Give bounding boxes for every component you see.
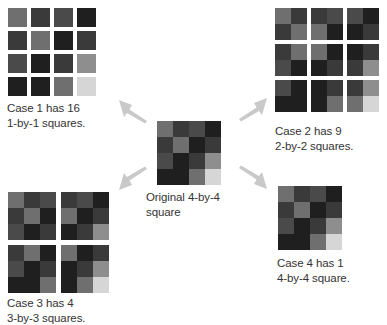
- pattern-cell: [8, 224, 24, 240]
- pattern-cell: [347, 60, 363, 76]
- pattern-cell: [77, 31, 96, 50]
- pattern-cell: [205, 153, 221, 169]
- pattern-cell: [54, 31, 73, 50]
- pattern-cell: [347, 96, 363, 112]
- pattern-cell: [363, 44, 379, 60]
- pattern-cell: [327, 8, 343, 24]
- pattern-cell: [93, 192, 109, 208]
- pattern-cell: [347, 44, 363, 60]
- pattern-cell: [24, 208, 40, 224]
- pattern-cell: [326, 234, 342, 250]
- pattern-cell: [363, 96, 379, 112]
- pattern-cell: [291, 8, 307, 24]
- pattern-cell: [61, 277, 77, 293]
- pattern-cell: [326, 186, 342, 202]
- pattern-cell: [205, 137, 221, 153]
- pattern-cell: [8, 208, 24, 224]
- pattern-cell: [311, 80, 327, 96]
- pattern-cell: [291, 96, 307, 112]
- pattern-cell: [77, 277, 93, 293]
- sub-square-block: [347, 8, 379, 40]
- case-1-group: [8, 8, 96, 96]
- pattern-cell: [93, 245, 109, 261]
- pattern-cell: [24, 245, 40, 261]
- case-4-caption: Case 4 has 1 4-by-4 square.: [277, 256, 350, 285]
- pattern-cell: [8, 8, 27, 27]
- pattern-cell: [275, 96, 291, 112]
- pattern-cell: [8, 31, 27, 50]
- pattern-cell: [31, 31, 50, 50]
- pattern-cell: [40, 277, 56, 293]
- pattern-cell: [311, 8, 327, 24]
- sub-square-block: [61, 192, 109, 240]
- pattern-cell: [275, 8, 291, 24]
- pattern-cell: [294, 186, 310, 202]
- pattern-cell: [40, 192, 56, 208]
- case-4-grid: [278, 186, 342, 250]
- pattern-cell: [31, 8, 50, 27]
- pattern-cell: [40, 261, 56, 277]
- arrow-down-left-icon: [116, 164, 150, 194]
- pattern-cell: [327, 60, 343, 76]
- arrow-up-right-icon: [236, 94, 270, 124]
- pattern-cell: [54, 54, 73, 73]
- pattern-cell: [327, 24, 343, 40]
- pattern-cell: [8, 261, 24, 277]
- pattern-cell: [294, 234, 310, 250]
- pattern-cell: [8, 277, 24, 293]
- pattern-cell: [54, 77, 73, 96]
- pattern-cell: [93, 208, 109, 224]
- sub-square-block: [275, 80, 307, 112]
- pattern-cell: [363, 8, 379, 24]
- pattern-cell: [327, 44, 343, 60]
- pattern-cell: [291, 80, 307, 96]
- sub-square-block: [275, 44, 307, 76]
- pattern-cell: [275, 44, 291, 60]
- pattern-cell: [40, 208, 56, 224]
- pattern-cell: [291, 44, 307, 60]
- sub-square-block: [8, 245, 56, 293]
- pattern-cell: [77, 208, 93, 224]
- pattern-cell: [77, 192, 93, 208]
- pattern-cell: [326, 218, 342, 234]
- arrow-down-right-icon: [236, 163, 270, 193]
- pattern-cell: [189, 153, 205, 169]
- pattern-cell: [24, 261, 40, 277]
- pattern-cell: [347, 8, 363, 24]
- pattern-cell: [278, 218, 294, 234]
- pattern-cell: [347, 80, 363, 96]
- pattern-cell: [363, 80, 379, 96]
- pattern-cell: [278, 202, 294, 218]
- case-3-caption: Case 3 has 4 3-by-3 squares.: [7, 296, 85, 325]
- pattern-cell: [327, 96, 343, 112]
- pattern-cell: [93, 261, 109, 277]
- pattern-cell: [8, 245, 24, 261]
- original-square-grid: [157, 121, 221, 185]
- original-square-group: [157, 121, 221, 185]
- pattern-cell: [275, 60, 291, 76]
- pattern-cell: [8, 54, 27, 73]
- pattern-cell: [291, 60, 307, 76]
- pattern-cell: [278, 186, 294, 202]
- pattern-cell: [311, 44, 327, 60]
- pattern-cell: [61, 261, 77, 277]
- pattern-cell: [31, 77, 50, 96]
- sub-square-block: [311, 44, 343, 76]
- pattern-cell: [205, 121, 221, 137]
- pattern-cell: [275, 80, 291, 96]
- case-2-group: [275, 8, 379, 112]
- pattern-cell: [311, 96, 327, 112]
- case-2-blocks: [275, 8, 379, 112]
- pattern-cell: [189, 137, 205, 153]
- pattern-cell: [294, 218, 310, 234]
- pattern-cell: [294, 202, 310, 218]
- pattern-cell: [327, 80, 343, 96]
- original-square-caption: Original 4-by-4 square: [146, 190, 220, 219]
- pattern-cell: [54, 8, 73, 27]
- pattern-cell: [61, 208, 77, 224]
- sub-square-block: [347, 44, 379, 76]
- sub-square-block: [8, 192, 56, 240]
- pattern-cell: [189, 169, 205, 185]
- pattern-cell: [173, 137, 189, 153]
